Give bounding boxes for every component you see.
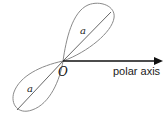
origin-label: O — [58, 65, 68, 79]
upper-lobe-curve — [63, 3, 114, 61]
lower-lobe-label: a — [27, 83, 33, 94]
upper-lobe-label: a — [80, 25, 86, 36]
polar-axis-label: polar axis — [113, 65, 161, 77]
arrowhead-icon — [154, 57, 163, 65]
upper-diameter-line — [63, 12, 111, 61]
lemniscate-diagram: a a O polar axis — [0, 0, 168, 117]
